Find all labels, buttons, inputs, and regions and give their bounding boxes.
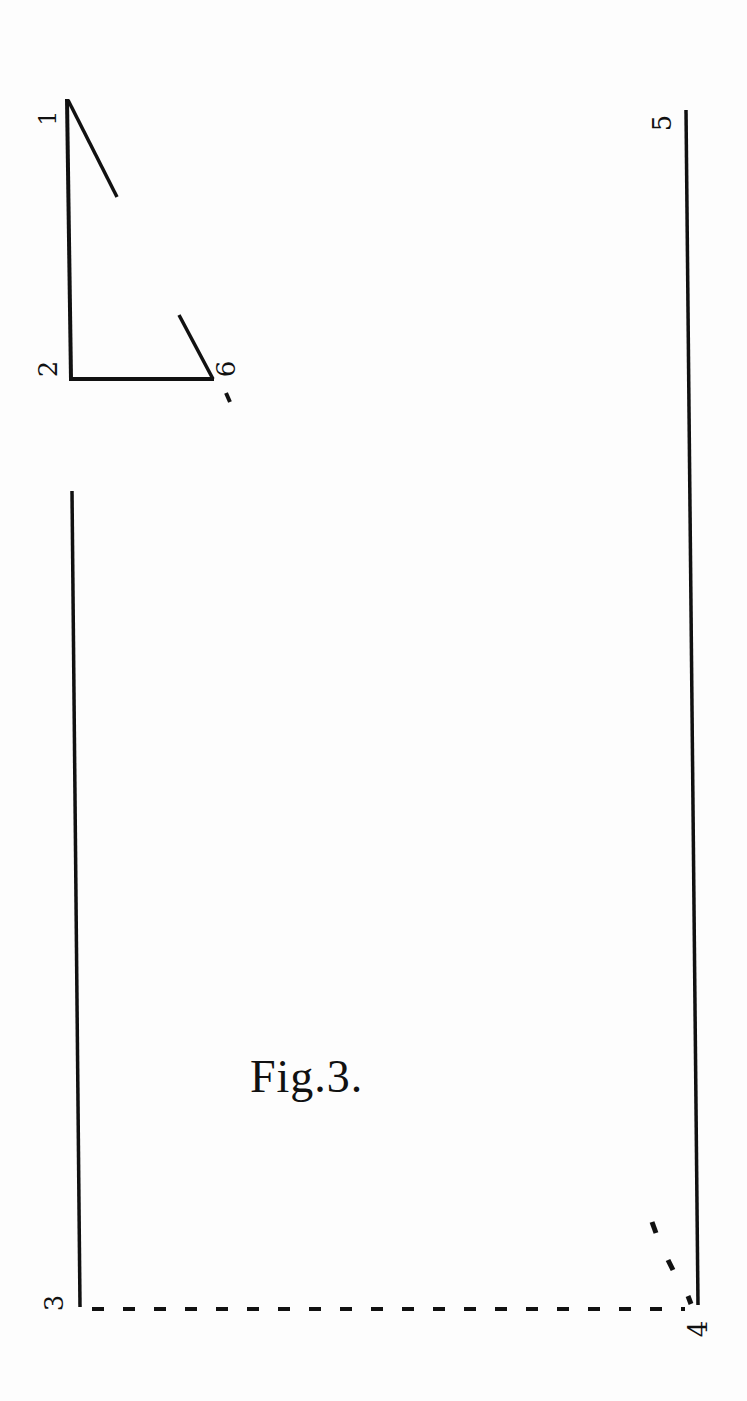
diagonal-dashes [652,1222,691,1304]
label-point-2: 2 [35,361,61,378]
label-point-3: 3 [41,1295,67,1312]
label-point-1: 1 [36,110,60,125]
label-point-5: 5 [649,115,675,132]
line-left-vertical [72,491,80,1307]
dash [652,1222,656,1233]
geometric-diagram [0,0,747,1401]
small-triangle [67,99,214,379]
label-point-4: 4 [685,1321,711,1338]
dash [668,1260,673,1270]
page: 1 2 6 3 4 5 Fig.3. [0,0,747,1401]
line-1-2 [67,99,71,379]
figure-caption: Fig.3. [250,1050,363,1103]
hypotenuse-lower [179,315,213,379]
large-figure [72,110,698,1309]
line-5-4 [686,110,698,1305]
tick-mark [226,393,230,402]
dash [688,1296,691,1304]
label-point-6: 6 [213,361,239,378]
hypotenuse-upper [68,100,117,197]
